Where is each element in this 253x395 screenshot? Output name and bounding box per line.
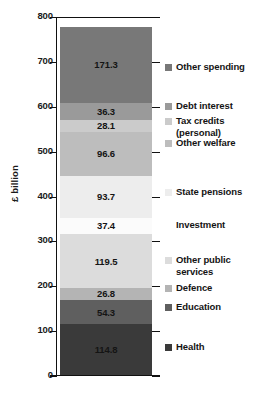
legend-swatch-icon [165,140,172,147]
bar-segment: 26.8 [60,288,152,300]
bar-segment-value: 28.1 [97,121,115,131]
y-tick-label: 100 [9,324,53,335]
legend-item[interactable]: Tax credits(personal) [165,115,253,138]
legend-item[interactable]: Education [165,301,253,313]
y-tick-mark-right [152,286,160,287]
legend-item[interactable]: Other publicservices [165,254,253,277]
legend-label: Other publicservices [176,254,231,277]
legend-swatch-icon [165,103,172,110]
y-axis-title: £ billion [9,149,20,219]
legend-label-line1: Other welfare [176,137,235,148]
y-tick-mark-left [50,107,57,108]
bar-segment-value: 37.4 [97,221,115,231]
y-tick-label: 0 [9,369,53,380]
stacked-bar-chart: £ billion 0100200300400500600700800 114.… [0,0,253,395]
legend-label-line1: Health [176,341,204,352]
y-tick-mark-left [50,376,57,377]
legend-swatch-icon [165,222,172,229]
bar-segment: 37.4 [60,218,152,235]
legend-label: Investment [176,219,225,231]
legend-swatch-icon [165,344,172,351]
bar-segment: 96.6 [60,132,152,175]
y-tick-mark-left [50,286,57,287]
legend-label-line1: Education [176,301,221,312]
legend-label-line1: Investment [176,219,225,230]
legend-item[interactable]: Other spending [165,61,253,73]
legend-swatch-icon [165,285,172,292]
y-tick-label: 500 [9,145,53,156]
legend-label: Education [176,301,221,313]
legend-item[interactable]: Debt interest [165,100,253,112]
legend-swatch-icon [165,257,172,264]
legend-item[interactable]: Health [165,341,253,353]
legend-label-line1: Debt interest [176,100,233,111]
bar-segment: 171.3 [60,27,152,104]
legend-label: Tax credits(personal) [176,115,224,138]
legend-label-line1: Tax credits [176,115,224,126]
bar-segment: 114.8 [60,324,152,376]
legend-label: Other spending [176,61,245,73]
legend-label-line1: Other spending [176,61,245,72]
legend-label-line1: State pensions [176,186,242,197]
legend-label-line1: Other public [176,254,231,265]
legend-item[interactable]: Defence [165,282,253,294]
bar-segment: 93.7 [60,176,152,218]
y-tick-label: 400 [9,190,53,201]
bar-segment-value: 26.8 [97,289,115,299]
y-tick-mark-right [152,62,160,63]
y-tick-label: 800 [9,10,53,21]
bar-segment-value: 119.5 [95,257,118,267]
y-tick-mark-left [50,62,57,63]
legend-item[interactable]: Other welfare [165,137,253,149]
bar-stack: 114.854.326.8119.537.493.796.628.136.317… [60,17,152,376]
bar-segment-value: 171.3 [94,60,117,70]
bar-segment-value: 93.7 [97,192,115,202]
x-axis-baseline [50,375,160,376]
legend-label: Health [176,341,204,353]
y-tick-mark-right [152,197,160,198]
y-tick-mark-right [152,241,160,242]
y-tick-label: 600 [9,100,53,111]
y-tick-mark-left [50,331,57,332]
legend-swatch-icon [165,64,172,71]
bar-segment-value: 96.6 [97,149,115,159]
bar-segment-value: 36.3 [97,107,115,117]
legend-swatch-icon [165,304,172,311]
y-tick-mark-right [152,331,160,332]
legend-label: State pensions [176,186,242,198]
legend-label-line2: (personal) [176,127,221,138]
legend-label: Other welfare [176,137,235,149]
y-tick-mark-left [50,152,57,153]
y-tick-mark-left [50,197,57,198]
bar-segment-value: 114.8 [95,345,118,355]
bar-segment: 28.1 [60,120,152,133]
y-tick-mark-right [152,152,160,153]
bar-segment: 36.3 [60,103,152,119]
y-tick-mark-right [152,107,160,108]
y-tick-label: 300 [9,234,53,245]
legend-item[interactable]: Investment [165,219,253,231]
y-tick-mark-right [152,376,160,377]
y-tick-mark-left [50,241,57,242]
legend-label-line2: services [176,266,213,277]
y-tick-label: 200 [9,279,53,290]
y-tick-label: 700 [9,55,53,66]
bar-segment: 119.5 [60,234,152,288]
legend-swatch-icon [165,118,172,125]
bar-segment-value: 54.3 [97,308,115,318]
legend-item[interactable]: State pensions [165,186,253,198]
legend-label: Defence [176,282,212,294]
legend-label: Debt interest [176,100,233,112]
legend-swatch-icon [165,189,172,196]
chart-legend: Other spendingDebt interestTax credits(p… [165,0,253,395]
legend-label-line1: Defence [176,282,212,293]
bar-segment: 54.3 [60,300,152,324]
